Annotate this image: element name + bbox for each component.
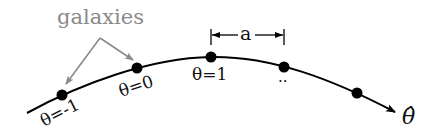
galaxy-dot: [132, 63, 143, 74]
theta-label-1: θ=1: [192, 64, 227, 84]
theta-hat-label: θ̂: [402, 104, 415, 129]
galaxy-dot: [352, 88, 363, 99]
theta-label-0: θ=0: [116, 71, 156, 101]
galaxies-label: galaxies: [57, 5, 144, 29]
pointer-arrow-right: [100, 38, 133, 60]
galaxy-dot: [206, 52, 217, 63]
pointer-arrow-left: [66, 38, 100, 84]
spacing-label: a: [240, 22, 251, 44]
ellipsis: ..: [278, 68, 288, 86]
galaxy-curve-diagram: galaxies a θ=-1 θ=0 θ=1 .. θ̂: [0, 0, 437, 140]
